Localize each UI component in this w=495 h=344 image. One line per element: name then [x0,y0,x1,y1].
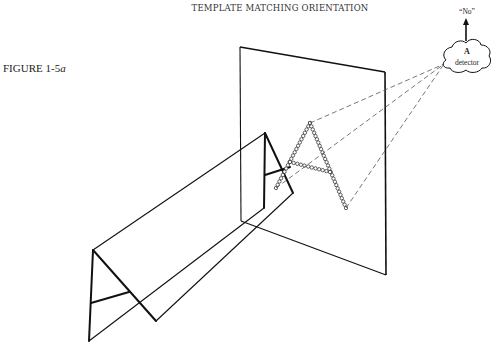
receptor-dot [325,169,328,172]
receptor-dot [278,180,281,183]
receptor-dot [326,164,329,167]
receptor-dot [279,177,282,180]
a-detector: A detector “No” [443,7,490,72]
receptor-dot [318,144,321,147]
projection-plane [240,47,386,275]
receptor-dot [296,144,299,147]
dotted-stimulus-letter-a [274,121,347,209]
receptor-dot [298,141,301,144]
detector-name: detector [455,58,480,67]
receptor-dot [300,138,303,141]
receptor-dot [328,170,331,173]
receptor-dot [325,161,328,164]
receptor-dot [307,165,310,168]
receptor-dot [322,154,325,157]
receptor-dot [321,169,324,172]
receptor-dot [296,162,299,165]
receptor-dot [311,128,314,131]
template-matching-diagram: A detector “No” [0,0,495,344]
receptor-dot [305,128,308,131]
receptor-dot [283,170,286,173]
receptor-dot [295,147,298,150]
receptor-dot [314,167,317,170]
receptor-dot [331,174,334,177]
receptor-dot [333,180,336,183]
receptor-dot [303,131,306,134]
near-template-letter-a [89,250,156,341]
receptor-dot [286,164,289,167]
receptor-dot [281,173,284,176]
receptor-dot [291,154,294,157]
receptor-dot [317,141,320,144]
receptor-dot [317,168,320,171]
receptor-dot [293,151,296,154]
receptor-dot [339,193,342,196]
receptor-dot [285,167,288,170]
receptor-dot [313,131,316,134]
output-arrow-head-icon [463,18,469,25]
receptor-dot [343,203,346,206]
receptor-dot [288,160,291,163]
receptor-dot [292,161,295,164]
receptor-dot [335,183,338,186]
receptor-dot [336,187,339,190]
receptor-dot [302,134,305,137]
receptor-dot [310,166,313,169]
detector-output: “No” [459,7,475,16]
receptor-dot [299,163,302,166]
receptor-dot [315,138,318,141]
receptor-dot [340,197,343,200]
template-prism [89,133,293,341]
detector-letter: A [464,47,470,56]
